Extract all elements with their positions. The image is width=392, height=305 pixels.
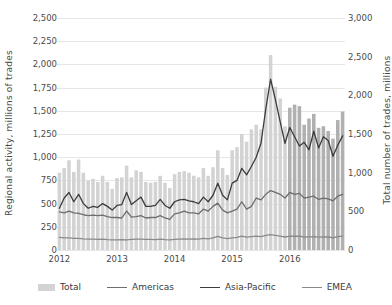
y-axis-left-tick-label: 250 — [41, 223, 57, 232]
bar — [77, 160, 81, 250]
bar — [307, 119, 311, 250]
y-axis-right-tick-label: 500 — [348, 207, 364, 216]
legend-line-swatch-icon — [200, 287, 220, 288]
legend-label: Asia-Pacific — [225, 282, 276, 292]
bar — [254, 125, 258, 250]
y-axis-left-tick-label: 750 — [41, 176, 57, 185]
y-axis-right-tick-label: 1,500 — [348, 130, 372, 139]
legend-label: EMEA — [327, 282, 352, 292]
bar — [274, 87, 278, 250]
bar — [250, 129, 254, 250]
y-axis-right-tick-label: 1,000 — [348, 169, 372, 178]
x-axis-ticks: 20122013201420152016 — [57, 251, 345, 267]
legend-item-asia-pacific[interactable]: Asia-Pacific — [200, 282, 276, 292]
bar — [67, 160, 71, 250]
bar — [230, 150, 234, 250]
legend-line-swatch-icon — [107, 287, 127, 288]
y-axis-left-tick-label: 2,500 — [33, 14, 57, 23]
bar — [240, 134, 244, 250]
y-axis-left-tick-label: 1,500 — [33, 107, 57, 116]
bar — [336, 120, 340, 250]
bar — [134, 170, 138, 250]
bar — [283, 126, 287, 250]
x-axis-tick-label: 2016 — [279, 254, 301, 264]
chart-legend: TotalAmericasAsia-PacificEMEA — [0, 282, 390, 292]
bar — [139, 172, 143, 250]
y-axis-left-tick-label: 1,000 — [33, 153, 57, 162]
y-axis-left-tick-label: 2,000 — [33, 60, 57, 69]
y-axis-left-title: Regional activity, millions of trades — [4, 28, 14, 238]
legend-item-americas[interactable]: Americas — [107, 282, 174, 292]
bar — [341, 112, 345, 250]
x-axis-tick-label: 2014 — [164, 254, 186, 264]
plot-svg — [57, 18, 345, 250]
y-axis-right-tick-label: 3,000 — [348, 14, 372, 23]
bar — [216, 150, 220, 250]
y-axis-left-tick-label: 500 — [41, 200, 57, 209]
bar — [245, 142, 249, 250]
bar — [125, 166, 129, 250]
y-axis-right-tick-label: 0 — [348, 246, 353, 255]
legend-label: Americas — [132, 282, 174, 292]
y-axis-right-tick-label: 2,000 — [348, 91, 372, 100]
x-axis-tick-label: 2013 — [106, 254, 128, 264]
bar — [298, 106, 302, 250]
x-axis-tick-label: 2012 — [49, 254, 71, 264]
x-axis-tick-label: 2015 — [221, 254, 243, 264]
bar — [326, 131, 330, 250]
legend-item-total[interactable]: Total — [38, 282, 81, 292]
bar-series-total — [58, 55, 345, 250]
y-axis-right-ticks: 05001,0001,5002,0002,5003,000 — [348, 0, 388, 305]
bar — [110, 189, 114, 250]
y-axis-left-tick-label: 1,250 — [33, 130, 57, 139]
bar — [322, 126, 326, 250]
y-axis-left-tick-label: 2,250 — [33, 37, 57, 46]
legend-bar-swatch-icon — [38, 284, 55, 291]
bar — [178, 172, 182, 250]
y-axis-left-tick-label: 1,750 — [33, 84, 57, 93]
bar — [235, 147, 239, 250]
y-axis-right-tick-label: 2,500 — [348, 53, 372, 62]
legend-line-swatch-icon — [302, 287, 322, 288]
bar — [293, 105, 297, 250]
plot-area — [57, 18, 345, 250]
legend-label: Total — [60, 282, 81, 292]
legend-item-emea[interactable]: EMEA — [302, 282, 352, 292]
